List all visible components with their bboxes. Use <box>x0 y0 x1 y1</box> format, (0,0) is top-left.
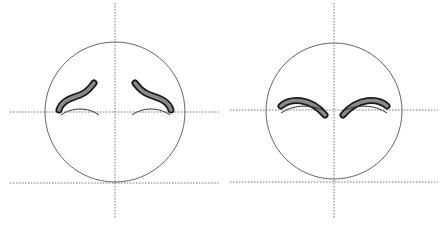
arched-brows-face <box>230 3 438 218</box>
worried-face <box>10 3 220 218</box>
diagram-canvas <box>0 0 440 240</box>
